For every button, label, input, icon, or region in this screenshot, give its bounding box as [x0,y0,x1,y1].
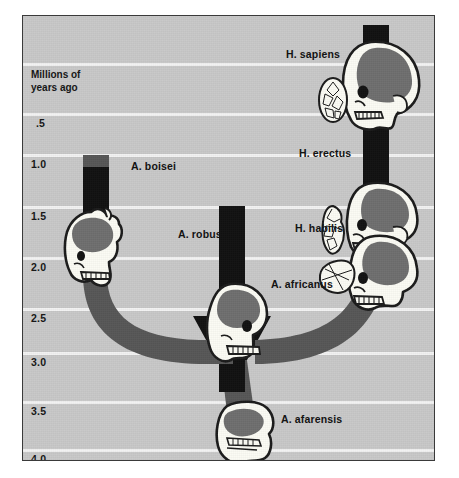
tool-h-sapiens [319,78,347,122]
axis-title-line1: Millions of [31,69,80,80]
axis-tick-0.5: .5 [36,117,45,129]
skull-a-africanus [207,284,267,361]
taxon-label-a-africanus: A. africanus [271,278,333,290]
axis-tick-3.0: 3.0 [31,356,46,368]
skull-h-sapiens [343,42,419,130]
axis-tick-1.0: 1.0 [31,158,46,170]
skull-a-afarensis [217,402,274,461]
chart-frame: Millions of years ago .5 1.0 1.5 2.0 2.5… [22,15,435,461]
skull-h-habilis [349,236,418,310]
taxon-label-h-habilis: H. habilis [295,222,343,234]
skull-a-boisei [65,208,122,286]
axis-title: Millions of years ago [31,69,80,94]
axis-tick-3.5: 3.5 [31,405,46,417]
hominid-evolution-figure: Millions of years ago .5 1.0 1.5 2.0 2.5… [0,0,459,478]
axis-tick-2.5: 2.5 [31,312,46,324]
axis-tick-1.5: 1.5 [31,210,46,222]
axis-tick-2.0: 2.0 [31,261,46,273]
taxon-label-h-erectus: H. erectus [299,147,351,159]
taxon-label-h-sapiens: H. sapiens [286,48,340,60]
axis-tick-4.0: 4.0 [31,453,46,461]
axis-title-line2: years ago [31,82,78,93]
taxon-label-a-robustus: A. robustus [178,228,238,240]
taxon-label-a-afarensis: A. afarensis [281,413,342,425]
taxon-label-a-boisei: A. boisei [131,160,176,172]
